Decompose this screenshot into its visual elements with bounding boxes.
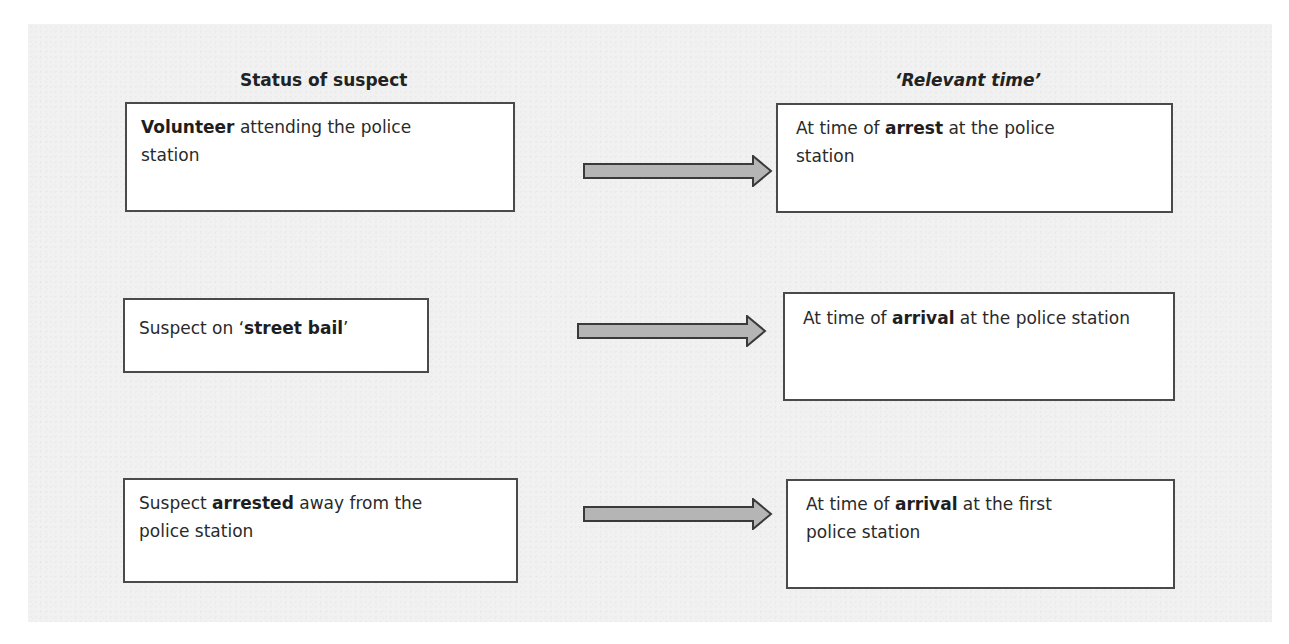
status-text-before: Suspect — [139, 493, 212, 513]
relevant-time-box-arrival: At time of arrival at the police station — [783, 292, 1175, 401]
relevant-time-box-arrest: At time of arrest at the police station — [776, 103, 1173, 213]
status-text-bold: Volunteer — [141, 117, 235, 137]
relevant-time-text-before: At time of — [803, 308, 892, 328]
relevant-time-text-after: at the police station — [954, 308, 1130, 328]
status-text-before: Suspect on ‘ — [139, 318, 244, 338]
relevant-time-text-bold: arrival — [895, 494, 957, 514]
relevant-time-text-before: At time of — [806, 494, 895, 514]
arrow-right-icon — [577, 315, 767, 347]
figure-page: Status of suspect ‘Relevant time’ Volunt… — [0, 0, 1289, 644]
status-box-volunteer: Volunteer attending the police station — [125, 102, 515, 212]
arrow-right-icon — [583, 498, 773, 530]
status-text-after: ’ — [343, 318, 348, 338]
status-text-bold: arrested — [212, 493, 294, 513]
relevant-time-text-bold: arrival — [892, 308, 954, 328]
heading-relevant-time: ‘Relevant time’ — [895, 70, 1041, 90]
status-text-bold: street bail — [244, 318, 343, 338]
status-box-arrested-away: Suspect arrested away from the police st… — [123, 478, 518, 583]
relevant-time-text-bold: arrest — [885, 118, 943, 138]
relevant-time-text-before: At time of — [796, 118, 885, 138]
arrow-right-icon — [583, 155, 773, 187]
heading-status-of-suspect: Status of suspect — [240, 70, 407, 90]
relevant-time-box-first-station: At time of arrival at the first police s… — [786, 479, 1175, 589]
status-box-street-bail: Suspect on ‘street bail’ — [123, 298, 429, 373]
